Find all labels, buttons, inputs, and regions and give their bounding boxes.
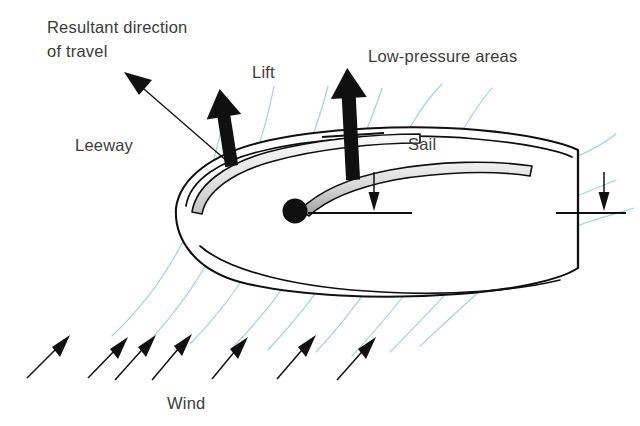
wind-arrow	[277, 335, 316, 379]
label-wind: Wind	[167, 394, 205, 412]
label-low-pressure: Low-pressure areas	[368, 47, 517, 65]
wind-arrow	[27, 335, 70, 378]
wind-arrow	[337, 337, 376, 380]
label-sail: Sail	[408, 135, 436, 153]
wind-arrow	[152, 334, 192, 380]
label-resultant-line2: of travel	[47, 42, 108, 60]
label-lift: Lift	[252, 63, 275, 81]
wind-arrows	[27, 334, 376, 380]
wind-arrow	[212, 337, 248, 379]
sailing-diagram: Resultant direction of travel Leeway Lif…	[0, 0, 640, 426]
mast-dot	[283, 199, 308, 224]
label-leeway: Leeway	[75, 136, 134, 154]
diagram-canvas: Resultant direction of travel Leeway Lif…	[0, 0, 640, 426]
label-resultant-line1: Resultant direction	[47, 18, 187, 36]
drift-arrow-stern	[599, 172, 610, 211]
